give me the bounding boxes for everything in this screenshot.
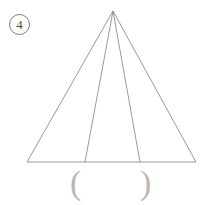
triangle-left-side bbox=[27, 11, 113, 162]
answer-open-paren: ( bbox=[70, 166, 81, 200]
triangle-right-side bbox=[113, 11, 196, 162]
cevian-left-line bbox=[85, 11, 113, 162]
cevian-right-line bbox=[113, 11, 140, 162]
triangle-figure bbox=[0, 0, 208, 205]
worksheet-figure-panel: 4 ( ) bbox=[0, 0, 208, 205]
answer-close-paren: ) bbox=[140, 166, 151, 200]
